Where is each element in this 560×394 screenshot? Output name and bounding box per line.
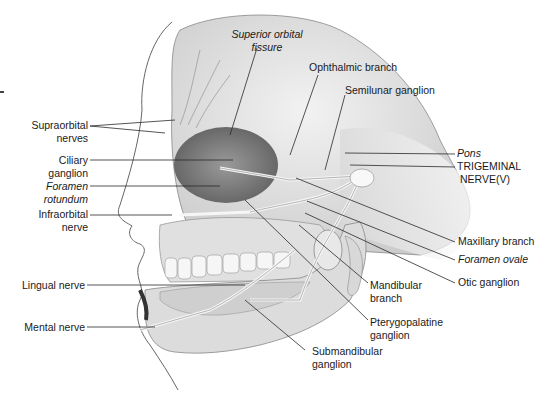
edge-mark (0, 91, 4, 93)
label-supraorbital-nerves: Supraorbital nerves (31, 119, 88, 144)
label-otic-ganglion: Otic ganglion (458, 276, 519, 289)
orbit (174, 127, 278, 203)
label-trigeminal-nerve: TRIGEMINAL NERVE(V) (457, 160, 521, 185)
label-ciliary-ganglion: Ciliary ganglion (48, 154, 88, 179)
label-mandibular-branch: Mandibular branch (370, 279, 422, 304)
label-pons: Pons (457, 147, 481, 160)
label-lingual-nerve: Lingual nerve (22, 279, 85, 292)
label-foramen-ovale: Foramen ovale (458, 253, 528, 266)
label-ophthalmic-branch: Ophthalmic branch (309, 61, 397, 74)
trigeminal-nerve-diagram: Supraorbital nerves Ciliary ganglion For… (0, 0, 560, 394)
label-superior-orbital-fissure: Superior orbital fissure (222, 28, 312, 53)
label-semilunar-ganglion: Semilunar ganglion (345, 84, 435, 97)
label-mental-nerve: Mental nerve (24, 321, 85, 334)
label-foramen-rotundum: Foramen rotundum (44, 180, 88, 205)
label-maxillary-branch: Maxillary branch (458, 235, 534, 248)
label-submandibular-ganglion: Submandibular ganglion (312, 345, 383, 370)
semilunar-ganglion-shape (350, 169, 374, 187)
label-infraorbital-nerve: Infraorbital nerve (38, 208, 88, 233)
label-pterygopalatine-ganglion: Pterygopalatine ganglion (370, 316, 443, 341)
